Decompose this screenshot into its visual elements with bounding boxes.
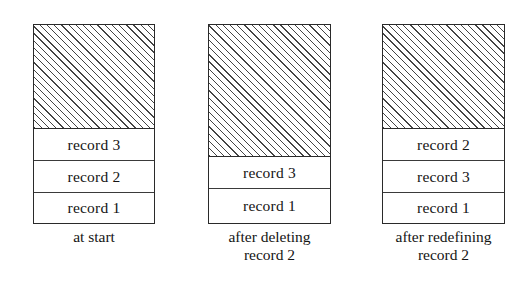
caption-line: after redefining [396, 228, 492, 246]
caption-line: after deleting [228, 228, 310, 246]
record-slot: record 3 [209, 157, 330, 189]
record-storage-figure: record 3 record 2 record 1 at start reco… [0, 0, 523, 282]
panel-caption: after deleting record 2 [228, 228, 310, 264]
record-slot: record 2 [383, 129, 504, 161]
free-space-hatched-region [209, 25, 330, 157]
record-slot: record 3 [383, 161, 504, 193]
panel-after-redefining-record-2: record 2 record 3 record 1 after redefin… [382, 24, 505, 224]
record-slot: record 1 [383, 193, 504, 223]
caption-line: record 2 [396, 246, 492, 264]
storage-box-after-redefining: record 2 record 3 record 1 [382, 24, 505, 224]
panel-caption: at start [73, 228, 115, 246]
record-slot: record 1 [34, 193, 154, 223]
caption-line: record 2 [228, 246, 310, 264]
panel-at-start: record 3 record 2 record 1 at start [33, 24, 155, 224]
record-slot: record 2 [34, 161, 154, 193]
panel-caption: after redefining record 2 [396, 228, 492, 264]
record-slot: record 1 [209, 189, 330, 223]
record-slot: record 3 [34, 129, 154, 161]
caption-line: at start [73, 228, 115, 246]
storage-box-after-deleting: record 3 record 1 [208, 24, 331, 224]
panel-after-deleting-record-2: record 3 record 1 after deleting record … [208, 24, 331, 224]
free-space-hatched-region [383, 25, 504, 129]
storage-box-at-start: record 3 record 2 record 1 [33, 24, 155, 224]
free-space-hatched-region [34, 25, 154, 129]
